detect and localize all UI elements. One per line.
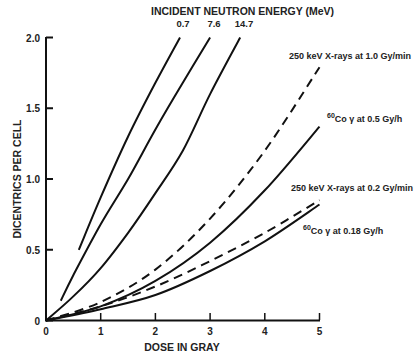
y-ticks: 00.51.01.52.0: [26, 33, 53, 327]
sup-60: 60: [327, 112, 335, 119]
annotation-xray-0.2: 250 keV X-rays at 0.2 Gy/min: [291, 183, 413, 193]
x-tick-label: 0: [43, 326, 49, 337]
chart: 00.51.01.52.0 012345 INCIDENT NEUTRON EN…: [0, 0, 415, 358]
label-7.6: 7.6: [207, 18, 220, 29]
y-tick-label: 2.0: [26, 33, 40, 44]
x-tick-label: 2: [153, 326, 159, 337]
y-tick-label: 0: [34, 316, 40, 327]
curve-250-kev-x-rays-at-0.2-gy-min: [46, 200, 320, 320]
y-tick-label: 0.5: [26, 245, 40, 256]
x-tick-label: 4: [262, 326, 268, 337]
label-0.7: 0.7: [176, 18, 189, 29]
annotation-co-0.18-text: Co γ at 0.18 Gy/h: [311, 226, 384, 236]
curves: [46, 38, 320, 321]
annotation-co-0.5: 60Co γ at 0.5 Gy/h: [327, 112, 402, 124]
curve-7.6: [61, 38, 210, 301]
x-tick-label: 5: [317, 326, 323, 337]
y-tick-label: 1.5: [26, 103, 40, 114]
curve-0.7: [79, 38, 180, 250]
annotation-co-0.18: 60Co γ at 0.18 Gy/h: [303, 224, 383, 236]
x-tick-label: 1: [98, 326, 104, 337]
axes: [45, 37, 320, 321]
annotation-xray-1.0: 250 keV X-rays at 1.0 Gy/min: [289, 51, 411, 61]
x-tick-label: 3: [207, 326, 213, 337]
annotation-co-0.5-text: Co γ at 0.5 Gy/h: [335, 114, 403, 124]
x-ticks: 012345: [43, 313, 323, 337]
curve-60co-at-0.5-gy-h: [46, 127, 320, 321]
label-14.7: 14.7: [235, 18, 254, 29]
y-axis-label: DICENTRICS PER CELL: [11, 119, 23, 239]
sup-60: 60: [303, 224, 311, 231]
x-axis-label: DOSE IN GRAY: [144, 341, 219, 353]
chart-title: INCIDENT NEUTRON ENERGY (MeV): [151, 5, 334, 17]
y-tick-label: 1.0: [26, 174, 40, 185]
